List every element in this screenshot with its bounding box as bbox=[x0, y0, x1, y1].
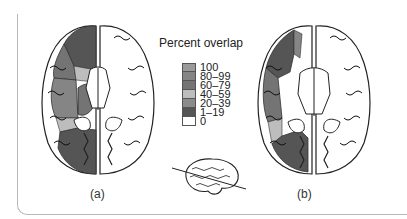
legend-swatch bbox=[182, 63, 196, 72]
legend-swatch bbox=[182, 81, 196, 90]
panel-label-a: (a) bbox=[90, 187, 105, 201]
legend-label: 0 bbox=[200, 117, 206, 126]
legend-item: 1–19 bbox=[182, 108, 231, 117]
legend-swatch bbox=[182, 72, 196, 81]
legend-item: 0 bbox=[182, 117, 231, 126]
brain-axial-slice-b bbox=[250, 18, 378, 178]
legend-title: Percent overlap bbox=[159, 36, 243, 50]
brain-axial-slice-a bbox=[34, 18, 162, 178]
panel-label-b: (b) bbox=[297, 187, 312, 201]
legend-swatch bbox=[182, 108, 196, 117]
legend-swatch bbox=[182, 99, 196, 108]
lesion-temporal-mid bbox=[51, 78, 78, 118]
legend: 100 80–99 60–79 40–59 20–39 1–19 0 bbox=[182, 63, 231, 126]
right-hemisphere-a bbox=[100, 26, 154, 174]
lesion-posterior-dark bbox=[58, 128, 96, 174]
legend-swatch bbox=[182, 90, 196, 99]
sagittal-brain-outline bbox=[186, 159, 238, 194]
sagittal-brain-icon bbox=[170, 155, 250, 200]
legend-swatch bbox=[182, 117, 196, 126]
